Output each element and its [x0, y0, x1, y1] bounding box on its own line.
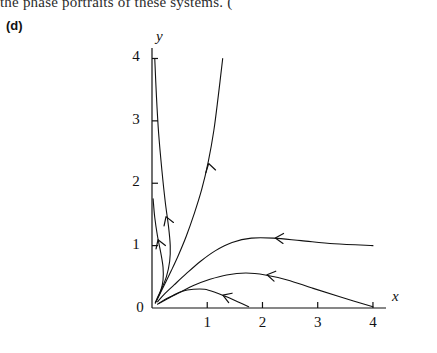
panel-label-d: (d) — [6, 18, 23, 33]
figure-page: the phase portraits of these systems. ( … — [0, 0, 437, 353]
x-tick-label-2: 2 — [252, 314, 272, 331]
y-axis-label: y — [156, 28, 163, 45]
trajectory-curve-1 — [153, 199, 163, 303]
y-tick-label-3: 3 — [126, 111, 146, 128]
trajectory-curve-5 — [158, 289, 249, 307]
trajectories-layer — [153, 58, 373, 306]
trajectory-curve-2 — [156, 58, 223, 301]
y-tick-label-4: 4 — [126, 48, 146, 65]
direction-arrow-2-0 — [204, 162, 216, 172]
x-tick-label-3: 3 — [308, 314, 328, 331]
x-tick-label-1: 1 — [197, 314, 217, 331]
x-tick-label-0: 0 — [130, 299, 150, 316]
direction-arrows-layer — [153, 162, 283, 302]
phase-portrait-plot: 012341234yx — [110, 18, 410, 352]
x-tick-label-4: 4 — [363, 314, 383, 331]
phase-portrait-svg — [110, 18, 410, 348]
page-top-text: the phase portraits of these systems. ( — [0, 0, 437, 11]
y-tick-label-1: 1 — [126, 236, 146, 253]
trajectory-curve-3 — [158, 238, 373, 302]
axes-layer — [152, 48, 386, 308]
y-tick-label-2: 2 — [126, 173, 146, 190]
arrow-head-2-0 — [204, 162, 216, 172]
x-axis-label: x — [392, 288, 399, 305]
